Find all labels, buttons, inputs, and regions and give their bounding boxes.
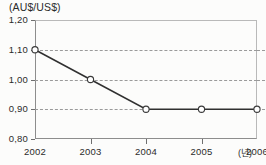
y-axis-tick [31,80,35,81]
gridline [35,80,257,81]
gridline [35,50,257,51]
x-axis-tick-label: 2005 [186,146,218,157]
gridline-overshoot [257,50,265,51]
y-axis-tick-label: 0,80 [9,133,28,144]
y-axis-tick [31,20,35,21]
gridline-overshoot [257,80,265,81]
y-axis-tick-label: 1,00 [9,74,28,85]
y-axis-unit-label: (AU$/US$) [9,1,61,13]
x-axis-tick-label: 2004 [130,146,162,157]
x-axis-unit-label: (년) [238,146,252,159]
x-axis-tick-label: 2002 [19,146,51,157]
x-axis-tick [146,139,147,144]
y-axis-tick [31,50,35,51]
chart-screenshot: (AU$/US$) 0,800,901,001,101,20 200220032… [0,0,266,165]
y-axis-tick [31,109,35,110]
x-axis-tick [202,139,203,144]
y-axis-tick [31,139,35,140]
y-axis-tick-label: 1,20 [9,14,28,25]
x-axis-tick-label: 2003 [75,146,107,157]
y-axis-tick-label: 1,10 [9,44,28,55]
x-axis-tick [91,139,92,144]
gridline [35,109,257,110]
y-axis-tick-label: 0,90 [9,103,28,114]
gridline-overshoot [257,109,265,110]
